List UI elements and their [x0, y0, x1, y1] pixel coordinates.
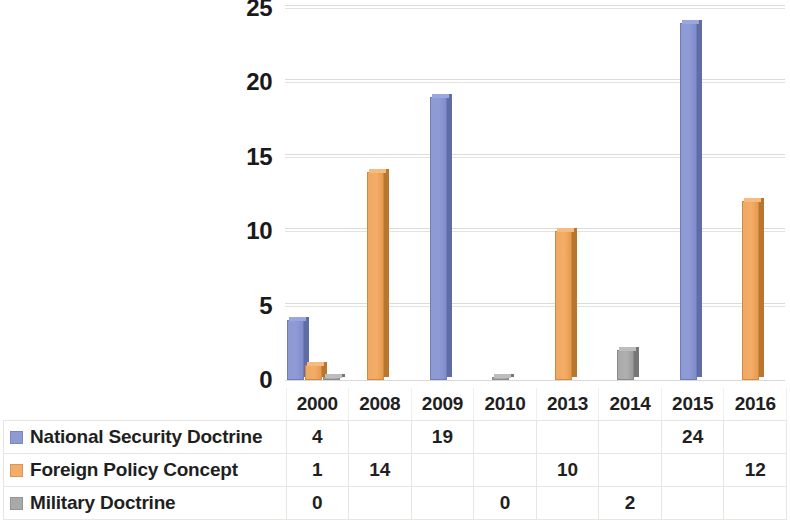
table-value-cell: 0 — [474, 487, 537, 520]
bar-top-face — [494, 374, 511, 378]
table-value-cell: 1 — [286, 454, 349, 487]
bar-front-face — [742, 201, 759, 380]
bar-front-face — [367, 172, 384, 380]
table-corner-cell — [4, 388, 287, 421]
series-legend-cell: Military Doctrine — [4, 487, 287, 520]
bar-front-face — [430, 97, 447, 380]
table-year-header: 2016 — [724, 388, 787, 421]
table-year-header: 2000 — [286, 388, 349, 421]
table-value-cell — [599, 454, 662, 487]
bar-side-face — [384, 169, 389, 377]
bar-top-face — [369, 169, 386, 173]
bar-cluster — [535, 8, 598, 380]
table-year-header: 2014 — [599, 388, 662, 421]
table-value-cell: 24 — [661, 421, 724, 454]
bar-grey — [492, 377, 509, 380]
y-axis-tick-label: 20 — [212, 68, 272, 96]
table-year-header: 2009 — [411, 388, 474, 421]
table-value-cell — [474, 421, 537, 454]
bar-orange — [742, 201, 759, 380]
bar-side-face — [634, 347, 639, 377]
bar-blue — [287, 320, 304, 380]
table-header-row: 20002008200920102013201420152016 — [4, 388, 787, 421]
legend-swatch-icon — [10, 464, 23, 477]
bar-front-face — [287, 320, 304, 380]
bar-side-face — [572, 228, 577, 377]
table-value-cell: 4 — [286, 421, 349, 454]
bar-side-face — [447, 94, 452, 377]
table-year-header: 2015 — [661, 388, 724, 421]
table-year-header: 2008 — [349, 388, 412, 421]
gridline-shadow — [285, 5, 785, 6]
bar-front-face — [305, 365, 322, 380]
series-legend-cell: National Security Doctrine — [4, 421, 287, 454]
bar-cluster — [598, 8, 661, 380]
legend-swatch-icon — [10, 431, 23, 444]
table-row: Foreign Policy Concept1141012 — [4, 454, 787, 487]
legend-swatch-icon — [10, 497, 23, 510]
table-value-cell: 14 — [349, 454, 412, 487]
plot-region: 0510152025 — [0, 0, 790, 390]
table-value-cell: 10 — [536, 454, 599, 487]
bar-orange — [367, 172, 384, 380]
bar-blue — [680, 23, 697, 380]
series-name-label: National Security Doctrine — [30, 426, 262, 447]
bar-top-face — [432, 94, 449, 98]
bar-top-face — [682, 20, 699, 24]
bar-grey — [617, 350, 634, 380]
bar-cluster — [723, 8, 786, 380]
bar-front-face — [617, 350, 634, 380]
table-value-cell — [724, 487, 787, 520]
bar-blue — [430, 97, 447, 380]
bar-top-face — [557, 228, 574, 232]
y-axis-tick-label: 15 — [212, 143, 272, 171]
bar-cluster — [473, 8, 536, 380]
series-name-label: Foreign Policy Concept — [30, 459, 238, 480]
table-value-cell: 12 — [724, 454, 787, 487]
bar-cluster — [660, 8, 723, 380]
table-value-cell: 0 — [286, 487, 349, 520]
series-legend-cell: Foreign Policy Concept — [4, 454, 287, 487]
bar-cluster — [410, 8, 473, 380]
table-row: Military Doctrine002 — [4, 487, 787, 520]
y-axis-tick-label: 25 — [212, 0, 272, 22]
table-value-cell: 2 — [599, 487, 662, 520]
bar-top-face — [744, 198, 761, 202]
plot-area — [285, 8, 785, 380]
table-value-cell — [661, 487, 724, 520]
y-axis-tick-label: 10 — [212, 217, 272, 245]
table-value-cell — [536, 487, 599, 520]
bar-side-face — [759, 198, 764, 377]
y-axis: 0510152025 — [212, 0, 272, 390]
y-axis-tick-label: 5 — [212, 292, 272, 320]
bar-cluster — [348, 8, 411, 380]
table-value-cell — [724, 421, 787, 454]
series-name-label: Military Doctrine — [30, 492, 175, 513]
table-value-cell — [411, 454, 474, 487]
bar-front-face — [555, 231, 572, 380]
table-value-cell — [349, 487, 412, 520]
bar-top-face — [325, 374, 342, 378]
gridline — [285, 380, 785, 381]
table-value-cell — [411, 487, 474, 520]
bar-orange — [555, 231, 572, 380]
bar-side-face — [697, 20, 702, 377]
bar-orange — [305, 365, 322, 380]
table-row: National Security Doctrine41924 — [4, 421, 787, 454]
table-year-header: 2010 — [474, 388, 537, 421]
table-value-cell: 19 — [411, 421, 474, 454]
bar-front-face — [680, 23, 697, 380]
bar-top-face — [307, 362, 324, 366]
bar-top-face — [289, 317, 306, 321]
table-year-header: 2013 — [536, 388, 599, 421]
table-value-cell — [536, 421, 599, 454]
chart-data-table: 20002008200920102013201420152016National… — [3, 388, 787, 520]
table-value-cell — [474, 454, 537, 487]
table-value-cell — [661, 454, 724, 487]
bar-grey — [323, 377, 340, 380]
bar-top-face — [619, 347, 636, 351]
table-value-cell — [599, 421, 662, 454]
table-value-cell — [349, 421, 412, 454]
bar-cluster — [285, 8, 348, 380]
